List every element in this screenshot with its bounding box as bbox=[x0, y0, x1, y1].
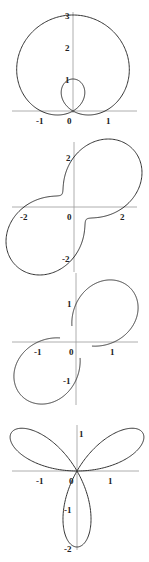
plot-2-peanut: -2 0 2 2 -2 bbox=[6, 139, 142, 275]
plot-1-x-tick-pos: 1 bbox=[106, 116, 111, 126]
polar-plots-canvas: -1 0 1 1 2 3 -2 0 2 2 -2 -1 0 1 1 -1 -1 … bbox=[0, 0, 149, 562]
plot-2-x-tick-pos: 2 bbox=[120, 212, 125, 222]
plot-4-x-tick-zero: 0 bbox=[69, 476, 74, 486]
plot-1-y-tick-1: 1 bbox=[65, 75, 70, 85]
plot-4-x-tick-neg: -1 bbox=[36, 476, 44, 486]
plot-4-x-tick-pos: 1 bbox=[108, 476, 113, 486]
plot-3-x-tick-neg: -1 bbox=[34, 347, 42, 357]
plot-1-y-tick-2: 2 bbox=[65, 43, 70, 53]
plot-1-x-tick-zero: 0 bbox=[67, 116, 72, 126]
plot-4-y-tick-neg2: -2 bbox=[64, 544, 72, 554]
plot-1-limacon: -1 0 1 1 2 3 bbox=[12, 11, 137, 126]
plot-3-two-petal: -1 0 1 1 -1 bbox=[12, 273, 138, 405]
plot-4-y-tick-1: 1 bbox=[79, 429, 84, 439]
plot-2-x-tick-neg: -2 bbox=[20, 212, 28, 222]
plot-3-y-tick-1: 1 bbox=[67, 299, 72, 309]
plot-2-y-tick-neg2: -2 bbox=[62, 254, 70, 264]
plot-4-rose: -1 0 1 1 -1 -2 bbox=[10, 425, 144, 554]
plot-2-y-tick-2: 2 bbox=[66, 153, 71, 163]
plot-3-x-tick-pos: 1 bbox=[110, 347, 115, 357]
plot-1-y-tick-3: 3 bbox=[65, 11, 70, 21]
plot-1-x-tick-neg: -1 bbox=[36, 116, 44, 126]
plot-4-y-tick-neg1: -1 bbox=[64, 505, 72, 515]
plot-3-x-tick-zero: 0 bbox=[69, 347, 74, 357]
plot-3-y-tick-neg1: -1 bbox=[63, 376, 71, 386]
plot-2-x-tick-zero: 0 bbox=[67, 212, 72, 222]
